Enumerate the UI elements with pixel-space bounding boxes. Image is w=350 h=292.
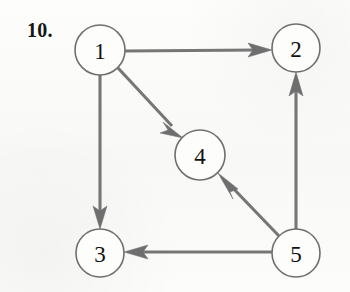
edge-5-to-4-arrowhead [218, 173, 238, 199]
edge-5-to-4 [218, 173, 279, 236]
graph-node-2-label: 2 [290, 37, 302, 62]
edge-1-to-4 [118, 68, 183, 138]
graph-node-5-label: 5 [290, 242, 302, 267]
graph-node-4[interactable]: 4 [175, 130, 225, 180]
edge-1-to-3 [93, 75, 107, 229]
graph-node-2[interactable]: 2 [272, 24, 320, 72]
directed-graph-diagram: 1 2 4 3 5 [0, 0, 350, 292]
graph-node-3-label: 3 [94, 242, 106, 267]
graph-node-5[interactable]: 5 [272, 229, 320, 277]
graph-node-1-label: 1 [94, 39, 106, 64]
edge-1-to-2 [125, 43, 272, 57]
nodes-group: 1 2 4 3 5 [75, 24, 320, 277]
edge-5-to-2 [289, 72, 303, 229]
edge-5-to-4-line [229, 184, 279, 236]
graph-node-3[interactable]: 3 [76, 229, 124, 277]
edge-1-to-4-line [118, 68, 172, 126]
edge-5-to-3 [124, 245, 272, 259]
graph-node-1[interactable]: 1 [75, 25, 125, 75]
figure-container: 10. [0, 0, 350, 292]
graph-node-4-label: 4 [194, 144, 206, 169]
edge-1-to-2-line [125, 50, 258, 51]
